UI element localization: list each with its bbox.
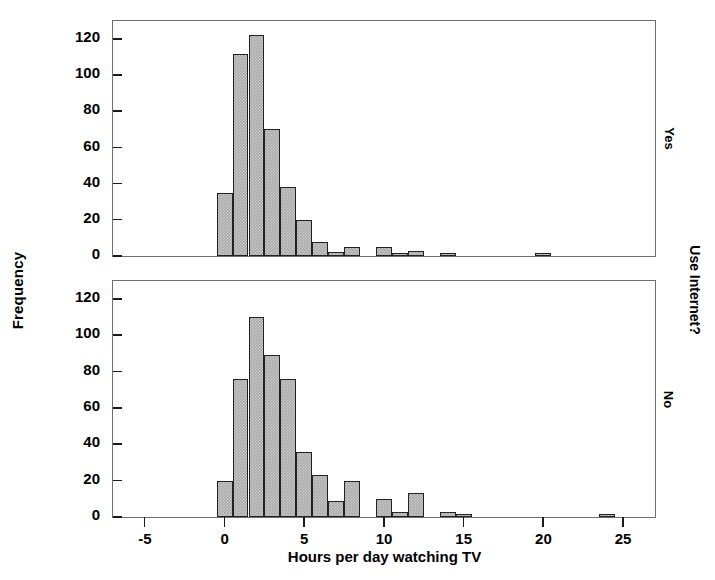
histogram-bar (344, 481, 360, 517)
y-axis-title-label: Frequency (10, 251, 27, 329)
y-axis-tick-mark (113, 480, 122, 482)
histogram-bar (408, 493, 424, 517)
x-axis-title-label: Hours per day watching TV (288, 548, 481, 565)
y-axis-tick-mark (113, 407, 122, 409)
x-axis-tick-label: 15 (455, 530, 472, 547)
y-axis-tick-mark (113, 147, 122, 149)
x-axis-tick-label: 10 (376, 530, 393, 547)
histogram-bar (233, 379, 249, 517)
x-axis-tick-mark (303, 517, 305, 527)
histogram-bar (233, 54, 249, 256)
x-axis-title: Hours per day watching TV (112, 548, 657, 565)
histogram-bar (264, 355, 280, 517)
histogram-bar (280, 187, 296, 256)
group-axis-title-label: Use Internet? (687, 245, 703, 334)
histogram-bar (249, 35, 265, 256)
histogram-bar (312, 242, 328, 256)
y-axis-tick-label: 20 (83, 209, 100, 226)
y-axis-tick-label: 120 (75, 288, 100, 305)
x-axis-tick-label: 25 (615, 530, 632, 547)
x-axis-tick-label: -5 (138, 530, 151, 547)
y-axis-tick-label: 80 (83, 100, 100, 117)
y-axis-tick-label: 40 (83, 173, 100, 190)
histogram-bar (599, 514, 615, 517)
y-axis-tick-mark (113, 371, 122, 373)
histogram-bar (440, 253, 456, 256)
histogram-bar (408, 251, 424, 256)
y-axis-title: Frequency (2, 0, 34, 580)
x-axis-tick-label: 5 (300, 530, 308, 547)
histogram-bar (312, 475, 328, 517)
y-axis-tick-mark (113, 334, 122, 336)
x-axis-tick-mark (224, 517, 226, 527)
x-axis-tick-label: 0 (220, 530, 228, 547)
y-axis-tick-label: 100 (75, 64, 100, 81)
y-axis-tick-mark (113, 255, 122, 257)
histogram-bar (392, 253, 408, 256)
plot-area-yes: 020406080100120 (113, 21, 655, 256)
histogram-bar (392, 512, 408, 517)
row-label-no-text: No (662, 390, 677, 407)
y-axis-tick-label: 100 (75, 324, 100, 341)
row-label-yes: Yes (658, 20, 680, 257)
y-axis-tick-label: 20 (83, 470, 100, 487)
x-axis-tick-mark (463, 517, 465, 527)
y-axis-tick-mark (113, 110, 122, 112)
histogram-bar (296, 220, 312, 256)
y-axis-tick-mark (113, 74, 122, 76)
x-axis-tick-mark (542, 517, 544, 527)
histogram-bar (264, 129, 280, 256)
histogram-bar (328, 252, 344, 256)
plot-area-no: 020406080100120-50510152025 (113, 281, 655, 517)
y-axis-tick-mark (113, 516, 122, 518)
histogram-bar (217, 193, 233, 256)
y-axis-tick-mark (113, 183, 122, 185)
y-axis-tick-label: 60 (83, 137, 100, 154)
histogram-bar (376, 499, 392, 517)
histogram-bar (376, 247, 392, 256)
histogram-bar (249, 317, 265, 517)
row-label-no: No (658, 280, 680, 518)
y-axis-tick-label: 120 (75, 28, 100, 45)
histogram-bar (440, 512, 456, 517)
x-axis-tick-mark (383, 517, 385, 527)
y-axis-tick-mark (113, 443, 122, 445)
histogram-figure: Frequency 020406080100120 Yes 0204060801… (0, 0, 715, 580)
histogram-bar (535, 253, 551, 256)
y-axis-tick-label: 40 (83, 433, 100, 450)
y-axis-tick-mark (113, 38, 122, 40)
y-axis-tick-mark (113, 219, 122, 221)
y-axis-tick-label: 0 (92, 245, 100, 262)
x-axis-tick-label: 20 (535, 530, 552, 547)
x-axis-tick-mark (144, 517, 146, 527)
group-axis-title: Use Internet? (678, 0, 712, 580)
histogram-bar (280, 379, 296, 517)
histogram-bar (328, 501, 344, 517)
y-axis-tick-label: 0 (92, 506, 100, 523)
histogram-bar (296, 452, 312, 517)
panel-yes: 020406080100120 (112, 20, 656, 257)
x-axis-tick-mark (622, 517, 624, 527)
panel-no: 020406080100120-50510152025 (112, 280, 656, 518)
y-axis-tick-mark (113, 298, 122, 300)
histogram-bar (344, 247, 360, 256)
row-label-yes-text: Yes (662, 127, 677, 149)
histogram-bar (217, 481, 233, 517)
y-axis-tick-label: 80 (83, 361, 100, 378)
y-axis-tick-label: 60 (83, 397, 100, 414)
